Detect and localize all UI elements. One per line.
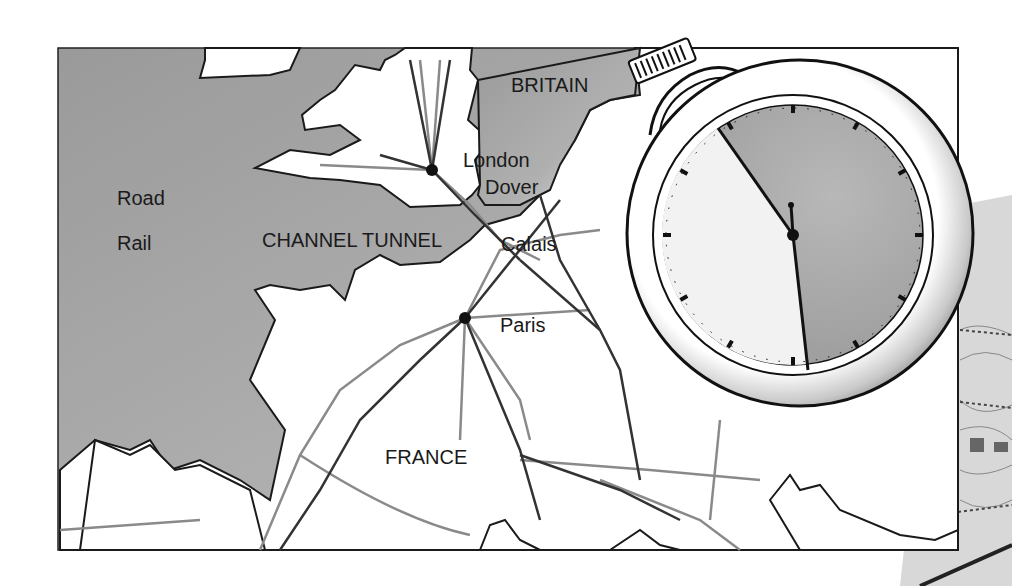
label-calais: Calais xyxy=(501,234,557,254)
legend-road: Road xyxy=(117,188,165,208)
label-britain: BRITAIN xyxy=(511,75,588,95)
legend-rail: Rail xyxy=(117,233,151,253)
label-london: London xyxy=(463,150,530,170)
channel-tunnel-map-scene: BRITAIN London Dover Calais CHANNEL TUNN… xyxy=(0,0,1012,586)
stopwatch xyxy=(0,0,1012,586)
label-channel-tunnel: CHANNEL TUNNEL xyxy=(262,230,442,250)
label-france: FRANCE xyxy=(385,447,467,467)
label-paris: Paris xyxy=(500,315,546,335)
label-dover: Dover xyxy=(485,177,538,197)
